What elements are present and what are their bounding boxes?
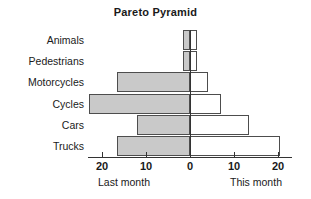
zero-axis-line bbox=[190, 30, 191, 158]
bar-last-month-motorcycles bbox=[117, 72, 190, 92]
category-label-pedestrians: Pedestrians bbox=[29, 55, 84, 67]
bar-this-month-cars bbox=[190, 115, 249, 135]
bar-last-month-cycles bbox=[89, 94, 190, 114]
category-label-trucks: Trucks bbox=[53, 140, 84, 152]
x-tick-label-2: 0 bbox=[187, 160, 193, 172]
x-tick-0 bbox=[102, 152, 103, 158]
category-labels: Animals Pedestrians Motorcycles Cycles C… bbox=[0, 28, 84, 158]
category-label-animals: Animals bbox=[47, 34, 84, 46]
bar-last-month-cars bbox=[137, 115, 190, 135]
x-tick-label-1: 10 bbox=[140, 160, 152, 172]
bar-last-month-pedestrians bbox=[183, 51, 190, 71]
x-tick-2 bbox=[190, 152, 191, 158]
x-tick-1 bbox=[146, 152, 147, 158]
bar-this-month-cycles bbox=[190, 94, 221, 114]
x-tick-label-0: 20 bbox=[96, 160, 108, 172]
category-label-cars: Cars bbox=[62, 119, 84, 131]
x-tick-4 bbox=[278, 152, 279, 158]
category-label-cycles: Cycles bbox=[52, 98, 84, 110]
bar-last-month-animals bbox=[183, 30, 190, 50]
chart-title: Pareto Pyramid bbox=[0, 6, 311, 18]
bar-this-month-trucks bbox=[190, 136, 280, 156]
bar-this-month-motorcycles bbox=[190, 72, 208, 92]
x-tick-label-4: 20 bbox=[272, 160, 284, 172]
pareto-pyramid-chart: Pareto Pyramid Animals Pedestrians Motor… bbox=[0, 0, 311, 199]
axis-caption-this-month: This month bbox=[230, 176, 282, 188]
bar-last-month-trucks bbox=[117, 136, 190, 156]
x-tick-label-3: 10 bbox=[228, 160, 240, 172]
axis-caption-last-month: Last month bbox=[98, 176, 150, 188]
category-label-motorcycles: Motorcycles bbox=[28, 76, 84, 88]
x-tick-3 bbox=[234, 152, 235, 158]
